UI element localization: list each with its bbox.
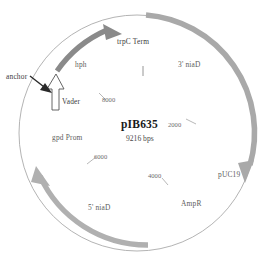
tick-leader-2000 <box>186 119 196 124</box>
feature-label-hph: hph <box>75 60 87 69</box>
plasmid-size-label: 9216 bps <box>126 134 154 143</box>
feature-label-trpc-term: trpC Term <box>117 37 149 46</box>
feature-label-3-niad: 3' niaD <box>178 60 201 69</box>
feature-label-ampr: AmpR <box>181 199 202 208</box>
plasmid-map-figure: trpC Term hph 3' niaD pUC19 AmpR 5' niaD… <box>0 0 274 268</box>
feature-arc-hph <box>57 24 122 71</box>
feature-arc-3-niaD <box>146 15 255 183</box>
annotation-label-anchor: anchor <box>6 72 27 81</box>
tick-label-2000: 2000 <box>168 121 181 128</box>
tick-label-6000: 6000 <box>94 153 107 160</box>
feature-label-gpd-prom: gpd Prom <box>52 133 83 142</box>
tick-leader-4000 <box>162 178 168 185</box>
feature-label-5-niad: 5' niaD <box>88 203 111 212</box>
feature-label-puc19: pUC19 <box>218 170 240 179</box>
tick-label-8000: 8000 <box>102 96 115 103</box>
plasmid-name-label: pIB635 <box>121 118 158 130</box>
annotation-arrow-anchor <box>30 76 52 93</box>
tick-label-4000: 4000 <box>148 172 161 179</box>
feature-label-vader: Vader <box>62 97 80 106</box>
